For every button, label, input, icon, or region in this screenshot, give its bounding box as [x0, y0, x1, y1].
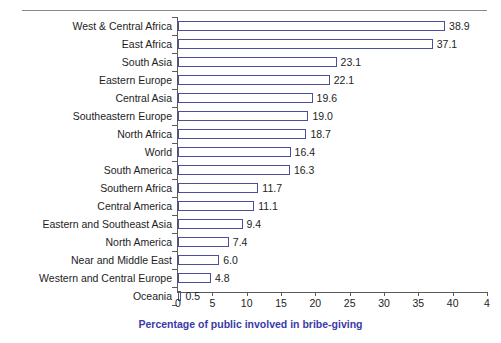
x-axis-tick	[212, 292, 213, 296]
bar	[178, 21, 445, 31]
bar-row: North America7.4	[0, 233, 501, 251]
bar-row: Eastern and Southeast Asia9.4	[0, 215, 501, 233]
bar-value-label: 37.1	[437, 35, 457, 53]
bar	[178, 165, 290, 175]
bar-value-label: 38.9	[449, 17, 469, 35]
y-axis-tick	[172, 89, 177, 90]
y-axis-tick	[172, 233, 177, 234]
bar-value-label: 16.4	[295, 143, 315, 161]
y-axis-tick	[172, 35, 177, 36]
bar	[178, 129, 306, 139]
plot-area: West & Central Africa38.9East Africa37.1…	[0, 0, 501, 343]
bar	[178, 57, 337, 67]
y-axis-tick	[172, 125, 177, 126]
y-axis-tick	[172, 251, 177, 252]
category-label: North America	[0, 233, 172, 251]
y-axis-tick	[172, 197, 177, 198]
bar-value-label: 22.1	[334, 71, 354, 89]
x-axis-tick	[247, 292, 248, 296]
bar-row: Central America11.1	[0, 197, 501, 215]
bar-row: Central Asia19.6	[0, 89, 501, 107]
bar	[178, 201, 254, 211]
category-label: Eastern and Southeast Asia	[0, 215, 172, 233]
bar-row: East Africa37.1	[0, 35, 501, 53]
x-axis-tick	[178, 292, 179, 296]
category-label: Southeastern Europe	[0, 107, 172, 125]
bar-value-label: 23.1	[341, 53, 361, 71]
x-axis-tick	[418, 292, 419, 296]
bar	[178, 39, 433, 49]
y-axis-tick	[172, 161, 177, 162]
bar-row: West & Central Africa38.9	[0, 17, 501, 35]
bar-value-label: 9.4	[247, 215, 262, 233]
bar-row: South America16.3	[0, 161, 501, 179]
bar	[178, 183, 258, 193]
bar	[178, 111, 308, 121]
y-axis-tick	[172, 179, 177, 180]
bar-row: South Asia23.1	[0, 53, 501, 71]
bar-value-label: 11.1	[258, 197, 278, 215]
bar-value-label: 18.7	[310, 125, 330, 143]
x-axis-title: Percentage of public involved in bribe-g…	[0, 318, 501, 330]
category-label: Central America	[0, 197, 172, 215]
bar	[178, 273, 211, 283]
category-label: Near and Middle East	[0, 251, 172, 269]
category-label: West & Central Africa	[0, 17, 172, 35]
bar	[178, 237, 229, 247]
category-label: Western and Central Europe	[0, 269, 172, 287]
bar-value-label: 7.4	[233, 233, 248, 251]
bar-chart: West & Central Africa38.9East Africa37.1…	[0, 0, 501, 343]
x-axis-tick	[281, 292, 282, 296]
bar-value-label: 11.7	[262, 179, 282, 197]
y-axis-tick	[172, 269, 177, 270]
bar-value-label: 19.6	[317, 89, 337, 107]
x-axis-tick	[487, 292, 488, 296]
bar-value-label: 6.0	[223, 251, 238, 269]
x-axis-tick	[453, 292, 454, 296]
category-label: North Africa	[0, 125, 172, 143]
bar	[178, 147, 291, 157]
category-label: South America	[0, 161, 172, 179]
x-axis-tick	[350, 292, 351, 296]
y-axis-tick	[172, 53, 177, 54]
y-axis-tick	[172, 71, 177, 72]
bar	[178, 255, 219, 265]
x-axis-tick	[315, 292, 316, 296]
category-label: East Africa	[0, 35, 172, 53]
bar-row: World16.4	[0, 143, 501, 161]
bar-row: North Africa18.7	[0, 125, 501, 143]
bar-value-label: 19.0	[312, 107, 332, 125]
x-axis-tick-label: 4	[467, 297, 501, 309]
y-axis-tick	[172, 17, 177, 18]
category-label: Eastern Europe	[0, 71, 172, 89]
category-label: Southern Africa	[0, 179, 172, 197]
y-axis-tick	[172, 287, 177, 288]
y-axis-tick	[172, 107, 177, 108]
x-axis-tick	[384, 292, 385, 296]
bar-row: Southern Africa11.7	[0, 179, 501, 197]
bar-value-label: 4.8	[215, 269, 230, 287]
bar-value-label: 16.3	[294, 161, 314, 179]
bar	[178, 75, 330, 85]
bar	[178, 219, 243, 229]
bar-row: Western and Central Europe4.8	[0, 269, 501, 287]
bar-row: Southeastern Europe19.0	[0, 107, 501, 125]
category-label: South Asia	[0, 53, 172, 71]
category-label: Central Asia	[0, 89, 172, 107]
bar	[178, 93, 313, 103]
category-label: World	[0, 143, 172, 161]
category-label: Oceania	[0, 287, 172, 305]
bar-row: Eastern Europe22.1	[0, 71, 501, 89]
y-axis-tick	[172, 215, 177, 216]
y-axis-tick	[172, 143, 177, 144]
bar-row: Near and Middle East6.0	[0, 251, 501, 269]
